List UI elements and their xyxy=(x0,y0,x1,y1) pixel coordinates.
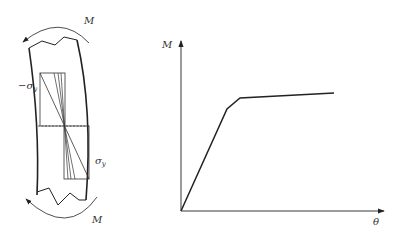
moment-arrow-bottom xyxy=(26,197,97,218)
moment-arrow-top xyxy=(23,27,89,43)
diagram-canvas: M M −σy σy M θ xyxy=(0,0,397,241)
y-axis-label: M xyxy=(161,39,173,50)
moment-rotation-chart: M θ xyxy=(161,39,384,227)
bottom-break-line xyxy=(37,188,86,205)
moment-rotation-curve xyxy=(181,93,334,211)
moment-label-bottom: M xyxy=(91,214,103,225)
beam-segment xyxy=(29,37,89,205)
top-break-line xyxy=(29,37,77,48)
beam-right-edge xyxy=(77,40,88,200)
x-axis-label: θ xyxy=(373,216,379,227)
moment-label-top: M xyxy=(83,15,95,26)
stress-distribution xyxy=(40,73,89,179)
pos-yield-stress-label: σy xyxy=(95,155,107,168)
beam-left-edge xyxy=(29,48,38,195)
neg-yield-stress-label: −σy xyxy=(18,80,38,93)
